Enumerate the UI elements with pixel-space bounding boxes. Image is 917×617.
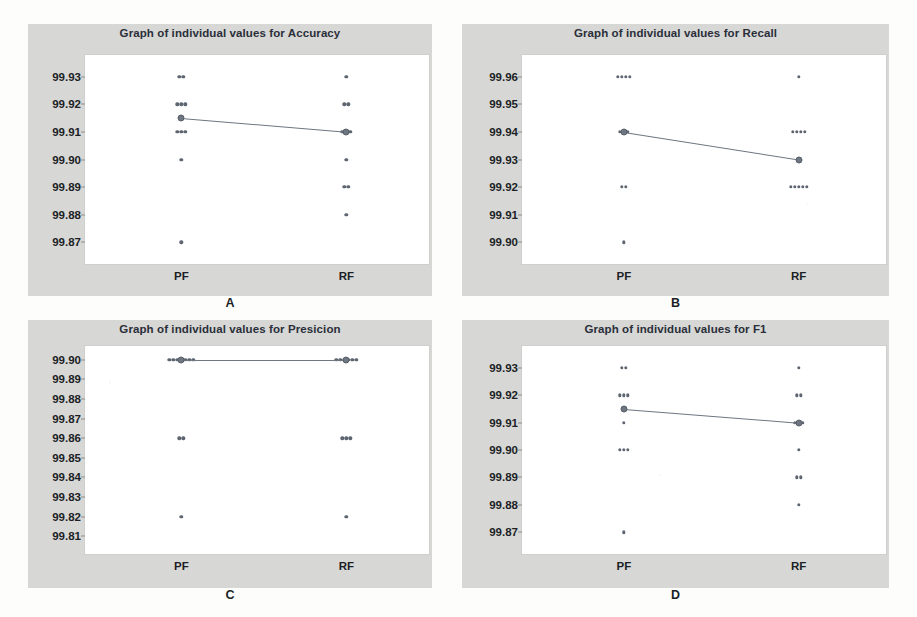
y-axis-tick-label: 99.89	[52, 181, 81, 193]
y-axis-tick-mark	[518, 131, 522, 132]
y-axis-tick-label: 99.85	[52, 452, 81, 464]
y-axis-tick-label: 99.86	[52, 432, 81, 444]
y-axis-tick-mark	[81, 104, 85, 105]
y-axis-tick-mark	[81, 359, 85, 360]
plot-area	[85, 55, 429, 264]
y-axis-tick-mark	[518, 367, 522, 368]
y-axis-tick-mark	[81, 159, 85, 160]
y-axis-tick-label: 99.90	[52, 354, 81, 366]
y-axis-tick-mark	[518, 532, 522, 533]
y-axis-tick-mark	[518, 214, 522, 215]
y-axis-tick-mark	[81, 131, 85, 132]
panel-caption-letter: D	[462, 588, 889, 602]
x-axis-tick-label-pf: PF	[617, 560, 632, 572]
y-axis-tick-label: 99.87	[489, 526, 518, 538]
y-axis-tick-mark	[518, 504, 522, 505]
chart-panel-a: Graph of individual values for Accuracy9…	[28, 24, 432, 296]
y-axis-tick-mark	[518, 395, 522, 396]
y-axis-tick-label: 99.84	[52, 471, 81, 483]
y-axis-tick-mark	[81, 457, 85, 458]
y-axis-tick-label: 99.93	[52, 71, 81, 83]
x-axis-tick-label-rf: RF	[339, 270, 354, 282]
y-axis-tick-mark	[81, 76, 85, 77]
y-axis-tick-mark	[518, 450, 522, 451]
chart-panel-b: Graph of individual values for Recall99.…	[462, 24, 889, 296]
mean-marker-rf	[343, 356, 350, 363]
plot-area	[85, 346, 429, 554]
mean-marker-pf	[178, 115, 185, 122]
y-axis-tick-mark	[81, 516, 85, 517]
y-axis-tick-mark	[81, 497, 85, 498]
chart-title: Graph of individual values for Presicion	[28, 323, 432, 335]
y-axis-tick-mark	[518, 422, 522, 423]
panel-caption-letter: B	[462, 296, 889, 310]
mean-marker-rf	[795, 156, 802, 163]
figure-panel-grid: Graph of individual values for Accuracy9…	[0, 0, 917, 617]
y-axis-tick-mark	[81, 379, 85, 380]
mean-connect-line	[181, 360, 346, 361]
y-axis-tick-label: 99.91	[489, 209, 518, 221]
y-axis-tick-label: 99.94	[489, 126, 518, 138]
y-axis-tick-label: 99.88	[52, 393, 81, 405]
mean-marker-pf	[620, 405, 627, 412]
y-axis-tick-mark	[518, 104, 522, 105]
mean-marker-pf	[178, 356, 185, 363]
y-axis-tick-mark	[81, 214, 85, 215]
y-axis-tick-label: 99.87	[52, 236, 81, 248]
y-axis-tick-label: 99.95	[489, 98, 518, 110]
y-axis-tick-label: 99.83	[52, 491, 81, 503]
y-axis-tick-mark	[81, 477, 85, 478]
y-axis-tick-mark	[81, 242, 85, 243]
y-axis-tick-label: 99.90	[489, 444, 518, 456]
panel-caption-letter: A	[28, 296, 432, 310]
chart-title: Graph of individual values for Accuracy	[28, 27, 432, 39]
plot-area	[522, 346, 886, 554]
x-axis-tick-label-rf: RF	[791, 560, 806, 572]
chart-title: Graph of individual values for Recall	[462, 27, 889, 39]
y-axis-tick-mark	[81, 187, 85, 188]
y-axis-tick-label: 99.92	[489, 389, 518, 401]
y-axis-tick-label: 99.88	[489, 499, 518, 511]
mean-marker-rf	[343, 128, 350, 135]
y-axis-tick-label: 99.93	[489, 154, 518, 166]
x-axis-tick-label-pf: PF	[617, 270, 632, 282]
mean-marker-rf	[795, 419, 802, 426]
y-axis-tick-mark	[518, 159, 522, 160]
y-axis-tick-label: 99.93	[489, 362, 518, 374]
y-axis-tick-mark	[81, 418, 85, 419]
x-axis-tick-label-pf: PF	[174, 560, 189, 572]
y-axis-tick-label: 99.91	[489, 417, 518, 429]
y-axis-tick-label: 99.90	[52, 154, 81, 166]
y-axis-tick-label: 99.89	[489, 471, 518, 483]
y-axis-tick-label: 99.92	[52, 98, 81, 110]
y-axis-tick-label: 99.89	[52, 373, 81, 385]
y-axis-tick-label: 99.90	[489, 236, 518, 248]
y-axis-tick-label: 99.87	[52, 413, 81, 425]
y-axis-tick-label: 99.81	[52, 530, 81, 542]
y-axis-tick-mark	[518, 187, 522, 188]
y-axis-tick-label: 99.88	[52, 209, 81, 221]
y-axis-tick-mark	[81, 399, 85, 400]
y-axis-tick-label: 99.91	[52, 126, 81, 138]
y-axis-tick-label: 99.92	[489, 181, 518, 193]
x-axis-tick-label-rf: RF	[339, 560, 354, 572]
y-axis-tick-label: 99.96	[489, 71, 518, 83]
y-axis-tick-mark	[518, 76, 522, 77]
mean-marker-pf	[620, 128, 627, 135]
chart-panel-d: Graph of individual values for F199.9399…	[462, 320, 889, 588]
y-axis-tick-mark	[81, 536, 85, 537]
y-axis-tick-mark	[518, 477, 522, 478]
y-axis-tick-label: 99.82	[52, 511, 81, 523]
y-axis-tick-mark	[81, 438, 85, 439]
chart-title: Graph of individual values for F1	[462, 323, 889, 335]
y-axis-tick-mark	[518, 242, 522, 243]
plot-area	[522, 55, 886, 264]
chart-panel-c: Graph of individual values for Presicion…	[28, 320, 432, 588]
x-axis-tick-label-pf: PF	[174, 270, 189, 282]
x-axis-tick-label-rf: RF	[791, 270, 806, 282]
panel-caption-letter: C	[28, 588, 432, 602]
